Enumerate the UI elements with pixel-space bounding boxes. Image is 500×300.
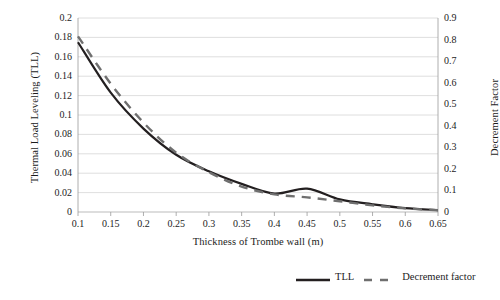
- y-axis-right-tick-label: 0.2: [444, 163, 478, 174]
- y-axis-left-tick-label: 0.06: [38, 148, 72, 159]
- gridlines: [78, 18, 438, 212]
- legend-item-decrement-factor: Decrement factor: [363, 271, 475, 282]
- y-axis-left-tick-label: 0.18: [38, 31, 72, 42]
- y-axis-right-tick-label: 0.8: [444, 34, 478, 45]
- legend-label-tll: TLL: [335, 271, 354, 282]
- y-axis-left-tick-label: 0.04: [38, 167, 72, 178]
- legend-swatch-solid-line-icon: [296, 271, 330, 281]
- series-line: [78, 42, 438, 210]
- y-axis-left-tick-label: 0.16: [38, 51, 72, 62]
- series-line: [78, 36, 438, 210]
- legend-item-tll: TLL: [296, 271, 354, 282]
- plot-area: [0, 0, 500, 300]
- legend-label-decrement-factor: Decrement factor: [402, 271, 475, 282]
- y-axis-right-tick-label: 0.6: [444, 77, 478, 88]
- y-axis-right-tick-label: 0.7: [444, 55, 478, 66]
- y-axis-left-tick-label: 0.02: [38, 187, 72, 198]
- series-lines: [78, 36, 438, 210]
- y-axis-left-tick-label: 0.1: [38, 109, 72, 120]
- y-axis-right-tick-label: 0.3: [444, 141, 478, 152]
- y-axis-left-tick-label: 0.14: [38, 70, 72, 81]
- x-axis-tick-label: 0.65: [418, 218, 458, 229]
- chart-figure: Thermal Load Leveling (TLL) Decrement Fa…: [0, 0, 500, 300]
- y-axis-left-tick-label: 0.08: [38, 128, 72, 139]
- y-axis-right-tick-label: 0: [444, 206, 478, 217]
- y-axis-left-tick-label: 0: [38, 206, 72, 217]
- y-axis-right-tick-label: 0.1: [444, 184, 478, 195]
- chart-legend: TLL Decrement factor: [296, 268, 475, 284]
- y-axis-right-tick-label: 0.9: [444, 12, 478, 23]
- y-axis-right-tick-label: 0.4: [444, 120, 478, 131]
- y-axis-left-tick-label: 0.2: [38, 12, 72, 23]
- y-axis-right-tick-label: 0.5: [444, 98, 478, 109]
- y-axis-right-title: Decrement Factor: [489, 18, 500, 218]
- y-axis-left-tick-label: 0.12: [38, 90, 72, 101]
- legend-swatch-dashed-line-icon: [363, 271, 397, 281]
- x-axis-title: Thickness of Trombe wall (m): [78, 236, 438, 247]
